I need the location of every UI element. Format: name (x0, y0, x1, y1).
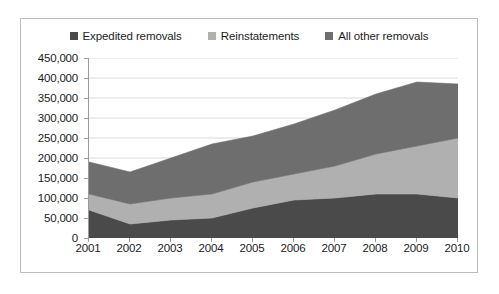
x-axis-tick-mark (252, 238, 253, 242)
y-axis-tick-label: 350,000 (38, 92, 78, 104)
y-axis-tick-label: 50,000 (44, 212, 78, 224)
y-axis-tick-mark (84, 178, 88, 179)
legend-square-marker-icon (70, 32, 78, 40)
x-axis-tick-label: 2007 (322, 242, 347, 254)
legend-item-label: Expedited removals (83, 30, 182, 42)
x-axis-tick-mark (293, 238, 294, 242)
plot-area (88, 58, 457, 238)
x-axis-tick-label: 2004 (199, 242, 224, 254)
y-axis-tick-mark (84, 78, 88, 79)
y-axis-tick-mark (84, 158, 88, 159)
x-axis-tick-mark (457, 238, 458, 242)
legend-item-label: All other removals (338, 30, 428, 42)
x-axis-tick-label: 2005 (240, 242, 265, 254)
y-axis-tick-mark (84, 58, 88, 59)
chart-legend: Expedited removals Reinstatements All ot… (20, 26, 478, 46)
x-axis-tick-label: 2010 (445, 242, 470, 254)
y-axis-tick-label: 250,000 (38, 132, 78, 144)
y-axis-tick-label: 300,000 (38, 112, 78, 124)
x-axis-tick-label: 2009 (404, 242, 429, 254)
legend-item-expedited-removals[interactable]: Expedited removals (70, 30, 182, 42)
y-axis-tick-mark (84, 98, 88, 99)
x-axis-tick-label: 2003 (158, 242, 183, 254)
x-axis-tick-mark (170, 238, 171, 242)
legend-item-all-other-removals[interactable]: All other removals (325, 30, 428, 42)
y-axis: 050,000100,000150,000200,000250,000300,0… (20, 58, 84, 238)
x-axis-tick-mark (88, 238, 89, 242)
stacked-area-plot (89, 58, 458, 238)
legend-item-label: Reinstatements (221, 30, 300, 42)
x-axis-tick-mark (334, 238, 335, 242)
x-axis-tick-label: 2006 (281, 242, 306, 254)
x-axis-tick-mark (211, 238, 212, 242)
chart-figure: Expedited removals Reinstatements All ot… (0, 0, 499, 294)
y-axis-tick-mark (84, 138, 88, 139)
x-axis-tick-label: 2008 (363, 242, 388, 254)
x-axis-tick-label: 2002 (117, 242, 142, 254)
y-axis-tick-label: 450,000 (38, 52, 78, 64)
y-axis-tick-mark (84, 198, 88, 199)
legend-item-reinstatements[interactable]: Reinstatements (208, 30, 300, 42)
legend-square-marker-icon (208, 32, 216, 40)
y-axis-tick-mark (84, 218, 88, 219)
y-axis-tick-label: 400,000 (38, 72, 78, 84)
y-axis-tick-label: 150,000 (38, 172, 78, 184)
y-axis-tick-label: 100,000 (38, 192, 78, 204)
y-axis-tick-label: 200,000 (38, 152, 78, 164)
x-axis-tick-mark (375, 238, 376, 242)
legend-square-marker-icon (325, 32, 333, 40)
x-axis-tick-label: 2001 (76, 242, 101, 254)
x-axis-tick-mark (416, 238, 417, 242)
y-axis-tick-mark (84, 118, 88, 119)
x-axis: 2001200220032004200520062007200820092010 (88, 242, 457, 262)
x-axis-tick-mark (129, 238, 130, 242)
